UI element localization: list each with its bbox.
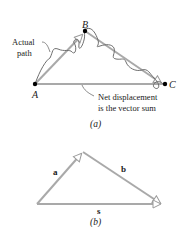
label-vector-a: a xyxy=(53,167,58,177)
label-vector-s: s xyxy=(97,206,101,216)
vector-bc xyxy=(85,31,161,83)
figure-b: a b s (b) xyxy=(37,152,160,227)
actual-path-label-line2: path xyxy=(17,48,32,58)
actual-path-label-line1: Actual xyxy=(12,37,35,47)
point-c xyxy=(163,82,167,86)
label-vector-b: b xyxy=(121,164,126,174)
point-a xyxy=(33,82,37,86)
net-displacement-leader xyxy=(82,85,94,96)
caption-a: (a) xyxy=(90,119,101,130)
actual-path-curve xyxy=(35,28,164,88)
label-c: C xyxy=(169,79,176,90)
actual-path-leader xyxy=(42,42,50,52)
net-displacement-label-line2: is the vector sum xyxy=(98,103,156,113)
vector-diagram: A B C Actual path Net displacement is th… xyxy=(0,0,191,227)
label-a: A xyxy=(31,89,39,100)
caption-b: (b) xyxy=(90,217,101,227)
vector-a xyxy=(37,154,81,204)
net-displacement-label-line1: Net displacement xyxy=(98,92,158,102)
label-b: B xyxy=(82,19,88,30)
vector-b xyxy=(83,152,160,203)
figure-a: A B C Actual path Net displacement is th… xyxy=(12,19,176,130)
